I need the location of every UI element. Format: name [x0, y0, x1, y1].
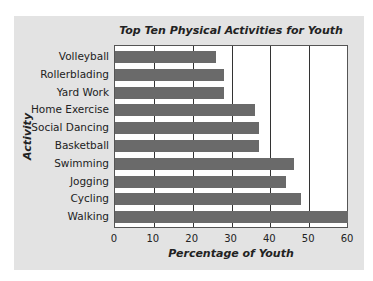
y-axis-label: Activity	[21, 107, 34, 167]
category-label: Volleyball	[59, 50, 109, 62]
x-tick-label: 60	[337, 233, 357, 244]
x-tick-label: 0	[104, 233, 124, 244]
x-tick-label: 30	[221, 233, 241, 244]
bar-walking	[115, 211, 348, 223]
x-tick-label: 10	[143, 233, 163, 244]
gridline	[309, 46, 310, 227]
bar-yard-work	[115, 87, 224, 99]
bar-social-dancing	[115, 122, 259, 134]
bar-rollerblading	[115, 69, 224, 81]
bar-cycling	[115, 193, 301, 205]
category-label: Basketball	[55, 139, 109, 151]
category-label: Walking	[68, 210, 109, 222]
bar-home-exercise	[115, 104, 255, 116]
category-label: Social Dancing	[31, 121, 109, 133]
category-label: Swimming	[54, 157, 109, 169]
category-label: Rollerblading	[40, 68, 109, 80]
category-label: Jogging	[70, 175, 109, 187]
category-label: Yard Work	[57, 86, 109, 98]
plot-area	[114, 45, 348, 228]
chart-title: Top Ten Physical Activities for Youth	[114, 24, 348, 37]
x-tick-label: 50	[298, 233, 318, 244]
bar-swimming	[115, 158, 294, 170]
bar-jogging	[115, 176, 286, 188]
x-tick-label: 20	[182, 233, 202, 244]
category-label: Cycling	[71, 192, 109, 204]
bar-volleyball	[115, 51, 216, 63]
bar-basketball	[115, 140, 259, 152]
x-axis-label: Percentage of Youth	[114, 247, 348, 260]
category-label: Home Exercise	[31, 103, 109, 115]
x-tick-label: 40	[259, 233, 279, 244]
